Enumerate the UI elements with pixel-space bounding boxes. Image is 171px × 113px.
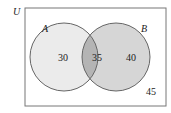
venn-diagram: U A B 30 35 40 45 [0, 0, 171, 113]
intersection-value: 35 [92, 52, 102, 63]
universe-label: U [13, 6, 21, 17]
a-only-value: 30 [58, 52, 68, 63]
set-a-label: A [41, 23, 49, 34]
b-only-value: 40 [126, 52, 136, 63]
set-b-label: B [141, 23, 147, 34]
outside-value: 45 [146, 86, 156, 97]
